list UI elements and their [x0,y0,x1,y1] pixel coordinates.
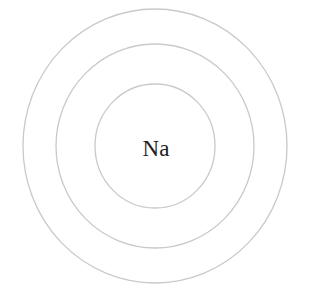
atom-diagram: Na [0,0,309,300]
element-symbol-label: Na [143,136,170,161]
